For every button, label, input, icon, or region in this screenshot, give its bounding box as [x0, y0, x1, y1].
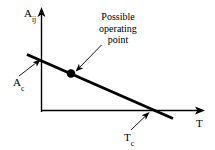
operating-point-callout: Possible operating point: [76, 11, 160, 46]
y-intercept-label: Ac: [13, 77, 24, 91]
figure-container: Aij T Ac Tc Possible operating point: [0, 0, 215, 150]
x-axis: [41, 107, 205, 115]
operating-point-marker: [67, 69, 76, 78]
y-axis-label-subscript: ij: [32, 15, 36, 24]
x-axis-label-base: T: [196, 117, 203, 129]
ac-leader-arrowhead: [33, 59, 41, 67]
y-axis-label-base: A: [24, 7, 32, 19]
tc-leader-line: [131, 116, 146, 130]
x-intercept-label-base: T: [124, 131, 131, 143]
ac-leader: [19, 59, 41, 76]
y-axis-label: Aij: [24, 8, 36, 22]
ac-leader-line: [19, 63, 37, 77]
x-intercept-label-subscript: c: [131, 139, 134, 148]
x-axis-label: T: [196, 118, 203, 129]
y-intercept-label-subscript: c: [21, 84, 24, 93]
y-intercept-label-base: A: [13, 76, 21, 88]
tc-leader: [131, 112, 150, 130]
callout-line-1: Possible: [76, 11, 160, 23]
callout-line-2: operating: [76, 23, 160, 35]
callout-line-3: point: [76, 34, 160, 46]
callout-leader-line: [80, 45, 102, 68]
operating-line: [27, 55, 173, 119]
x-intercept-label: Tc: [124, 132, 134, 146]
callout-leader: [76, 45, 102, 72]
